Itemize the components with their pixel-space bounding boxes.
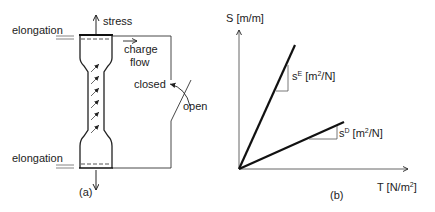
polarization-arrows — [91, 64, 99, 133]
panel-a: stress elongation elongation charge — [12, 15, 207, 198]
line-sE — [239, 45, 295, 169]
panel-b: S [m/m] T [N/m2] sE [m2/N] sD [m2/N] (b) — [226, 12, 417, 201]
charge-flow-label-1: charge — [124, 43, 158, 55]
x-axis-label: T [N/m2] — [377, 181, 417, 193]
slope-triangle-E — [276, 65, 288, 91]
elongation-top-label: elongation — [12, 24, 63, 36]
elongation-bottom-label: elongation — [12, 152, 63, 164]
stress-label: stress — [103, 15, 133, 27]
caption-b: (b) — [330, 189, 343, 201]
y-axis-label: S [m/m] — [226, 12, 264, 24]
caption-a: (a) — [79, 186, 92, 198]
sE-label: sE [m2/N] — [292, 70, 335, 82]
sD-label: sD [m2/N] — [339, 127, 383, 139]
figure: stress elongation elongation charge — [0, 0, 435, 212]
charge-flow-label-2: flow — [130, 56, 150, 68]
line-sD — [239, 122, 344, 169]
specimen-outline — [80, 35, 112, 168]
closed-label: closed — [134, 78, 166, 90]
open-label: open — [183, 100, 207, 112]
